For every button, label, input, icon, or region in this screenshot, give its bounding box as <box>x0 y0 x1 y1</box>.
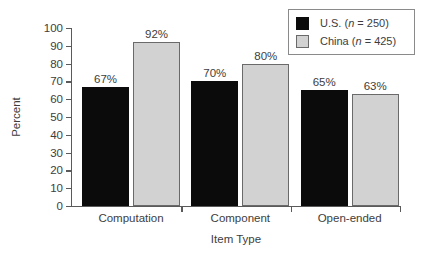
x-axis-category-label: Open-ended <box>318 212 382 224</box>
y-axis-tick <box>66 188 72 189</box>
y-axis-tick <box>66 153 72 154</box>
bar-open-ended-us: 65% <box>301 90 348 206</box>
y-axis-tick-label: 80 <box>50 58 63 70</box>
y-axis-tick-label: 0 <box>57 200 63 212</box>
bar-computation-china: 92% <box>133 42 180 206</box>
bar-component-us: 70% <box>191 81 238 206</box>
legend-item-china: China (n = 425) <box>296 33 407 49</box>
chart-legend: U.S. (n = 250)China (n = 425) <box>288 9 415 55</box>
y-axis-tick-label: 30 <box>50 147 63 159</box>
bar-value-label: 70% <box>203 67 226 79</box>
y-axis-tick <box>66 170 72 171</box>
bar-value-label: 92% <box>145 28 168 40</box>
bar-value-label: 65% <box>313 76 336 88</box>
bar-computation-us: 67% <box>82 87 129 206</box>
bar-value-label: 63% <box>364 80 387 92</box>
y-axis-title: Percent <box>10 97 22 137</box>
y-axis-tick-label: 70 <box>50 75 63 87</box>
y-axis-tick <box>66 99 72 100</box>
legend-label: U.S. (n = 250) <box>320 17 389 29</box>
y-axis-tick-label: 50 <box>50 111 63 123</box>
y-axis-tick <box>66 28 72 29</box>
legend-swatch-icon <box>296 35 309 48</box>
x-axis-tick <box>291 206 292 212</box>
x-axis-tick <box>400 206 401 212</box>
x-axis-category-label: Computation <box>98 212 163 224</box>
y-axis-tick-label: 20 <box>50 164 63 176</box>
y-axis-tick <box>66 64 72 65</box>
x-axis-category-label: Component <box>211 212 270 224</box>
legend-item-us: U.S. (n = 250) <box>296 15 407 31</box>
y-axis-tick-label: 40 <box>50 129 63 141</box>
legend-swatch-icon <box>296 17 309 30</box>
y-axis-tick-label: 100 <box>44 22 63 34</box>
bar-open-ended-china: 63% <box>352 94 399 206</box>
y-axis-tick-label: 10 <box>50 182 63 194</box>
bar-component-china: 80% <box>242 64 289 206</box>
y-axis-tick <box>66 135 72 136</box>
y-axis-tick <box>66 81 72 82</box>
bar-value-label: 67% <box>94 73 117 85</box>
legend-label: China (n = 425) <box>320 35 396 47</box>
y-axis-tick <box>66 206 72 207</box>
bar-value-label: 80% <box>254 50 277 62</box>
y-axis-tick <box>66 46 72 47</box>
bar-chart: Percent 0102030405060708090100 67%92%70%… <box>0 0 422 271</box>
y-axis-tick-label: 90 <box>50 40 63 52</box>
x-axis-title: Item Type <box>211 233 261 245</box>
x-axis-tick <box>181 206 182 212</box>
x-axis-line <box>71 206 401 207</box>
y-axis-tick-label: 60 <box>50 93 63 105</box>
y-axis-tick <box>66 117 72 118</box>
